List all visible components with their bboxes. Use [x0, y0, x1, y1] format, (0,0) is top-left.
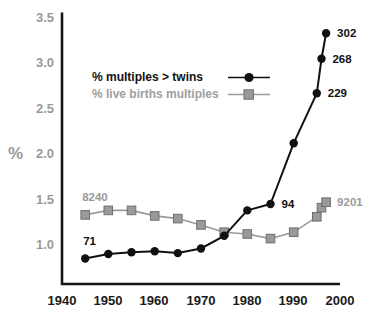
data-point[interactable] — [317, 55, 325, 63]
data-point[interactable] — [289, 228, 298, 237]
data-label-229: 229 — [328, 87, 347, 99]
data-label-94: 94 — [282, 198, 295, 210]
data-point[interactable] — [313, 213, 322, 222]
data-point[interactable] — [220, 232, 228, 240]
chart-container: % 3.5 3.0 2.5 2.0 1.5 1.0 1940 1950 1960… — [0, 0, 370, 318]
data-point[interactable] — [127, 206, 136, 215]
data-label-71: 71 — [83, 235, 96, 247]
plot-area — [0, 0, 370, 318]
data-point[interactable] — [104, 206, 113, 215]
legend-label-multiples-gt-twins: % multiples > twins — [92, 70, 203, 84]
data-point[interactable] — [151, 247, 159, 255]
legend-label-live-births-multiples: % live births multiples — [92, 87, 219, 101]
data-point[interactable] — [127, 248, 135, 256]
axis-spine — [62, 12, 340, 284]
data-label-9201: 9201 — [337, 196, 363, 208]
data-point[interactable] — [174, 249, 182, 257]
data-point[interactable] — [322, 29, 330, 37]
data-point[interactable] — [243, 206, 251, 214]
data-point[interactable] — [266, 234, 275, 243]
data-point[interactable] — [266, 200, 274, 208]
data-label-302: 302 — [337, 27, 356, 39]
data-label-268: 268 — [332, 53, 351, 65]
data-label-8240: 8240 — [82, 191, 108, 203]
data-point[interactable] — [174, 214, 183, 223]
data-point[interactable] — [243, 230, 252, 239]
data-point[interactable] — [290, 139, 298, 147]
data-point[interactable] — [150, 212, 159, 221]
data-point[interactable] — [81, 254, 89, 262]
legend-marker-circle-icon — [227, 70, 271, 85]
data-point[interactable] — [197, 221, 206, 230]
legend-marker-square-icon — [227, 87, 271, 102]
data-point[interactable] — [81, 211, 90, 220]
data-point[interactable] — [313, 89, 321, 97]
data-point[interactable] — [197, 244, 205, 252]
data-point[interactable] — [104, 250, 112, 258]
data-point[interactable] — [322, 198, 331, 207]
